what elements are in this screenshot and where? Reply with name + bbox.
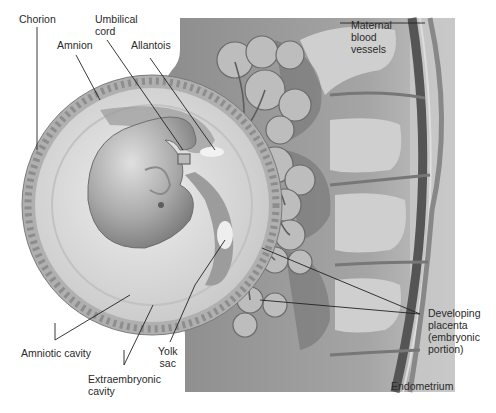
label-extraembryonic-cavity: Extraembryonic cavity (88, 373, 161, 397)
label-endometrium: Endometrium (391, 380, 453, 392)
allantois-shape (200, 147, 224, 157)
label-amnion: Amnion (57, 39, 93, 51)
label-amniotic-cavity: Amniotic cavity (21, 347, 91, 359)
eye-spot (158, 202, 164, 208)
label-umbilical-cord: Umbilical cord (95, 13, 138, 37)
label-maternal-blood-vessels: Maternal blood vessels (351, 19, 392, 55)
label-yolk-sac: Yolk sac (158, 345, 177, 369)
label-chorion: Chorion (19, 13, 56, 25)
label-developing-placenta: Developing placenta (embryonic portion) (428, 307, 481, 355)
label-allantois: Allantois (131, 39, 171, 51)
embryo-placenta-diagram: Chorion Umbilical cord Amnion Allantois … (0, 0, 496, 413)
